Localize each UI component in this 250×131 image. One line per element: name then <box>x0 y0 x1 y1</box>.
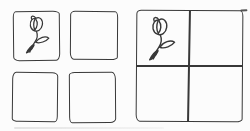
sketch-canvas <box>0 0 250 131</box>
horizontal-divider-line <box>136 65 243 67</box>
rose-icon <box>25 13 53 55</box>
left-square-top-left <box>13 11 61 61</box>
left-square-top-right <box>70 11 118 60</box>
left-square-bottom-right <box>69 72 116 123</box>
pen-overshoot-stroke <box>240 9 247 11</box>
left-square-bottom-left <box>12 72 59 122</box>
paper-smudge <box>14 127 164 129</box>
rose-icon <box>147 13 180 62</box>
divided-square <box>136 10 244 123</box>
